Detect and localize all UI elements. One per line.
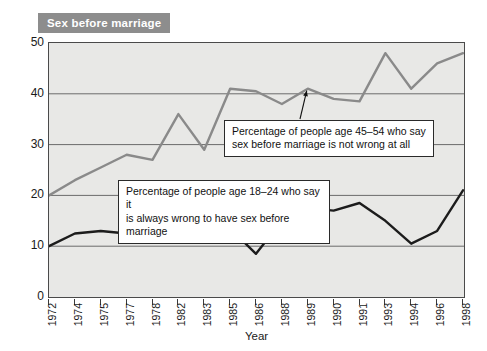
y-axis-ticks: 01020304050 [0, 42, 44, 298]
x-axis-label: Year [48, 330, 465, 342]
data-series-layer [49, 43, 464, 297]
x-tick-label: 1977 [124, 303, 136, 326]
x-tick-label: 1991 [357, 303, 369, 326]
x-tick-label: 1989 [305, 303, 317, 326]
x-tick-label: 1993 [382, 303, 394, 326]
y-tick-label: 50 [10, 35, 44, 49]
y-tick-label: 20 [10, 187, 44, 201]
x-tick-label: 1972 [46, 303, 58, 326]
y-tick-label: 40 [10, 86, 44, 100]
plot-area [48, 42, 465, 298]
callout-older-group: Percentage of people age 45–54 who say s… [224, 120, 434, 157]
chart-title: Sex before marriage [38, 13, 170, 33]
y-tick-label: 30 [10, 137, 44, 151]
x-tick-label: 1990 [331, 303, 343, 326]
x-tick-label: 1978 [150, 303, 162, 326]
x-tick-label: 1985 [227, 303, 239, 326]
callout-younger-group: Percentage of people age 18–24 who say i… [118, 180, 330, 244]
x-tick-label: 1986 [253, 303, 265, 326]
x-tick-label: 1974 [72, 303, 84, 326]
x-tick-label: 1996 [434, 303, 446, 326]
x-tick-label: 1975 [98, 303, 110, 326]
y-tick-label: 10 [10, 238, 44, 252]
chart-figure: Sex before marriage 01020304050 19721974… [0, 0, 487, 351]
x-tick-label: 1982 [175, 303, 187, 326]
x-tick-label: 1998 [460, 303, 472, 326]
x-tick-label: 1988 [279, 303, 291, 326]
y-tick-label: 0 [10, 289, 44, 303]
x-tick-label: 1983 [201, 303, 213, 326]
x-tick-label: 1994 [408, 303, 420, 326]
